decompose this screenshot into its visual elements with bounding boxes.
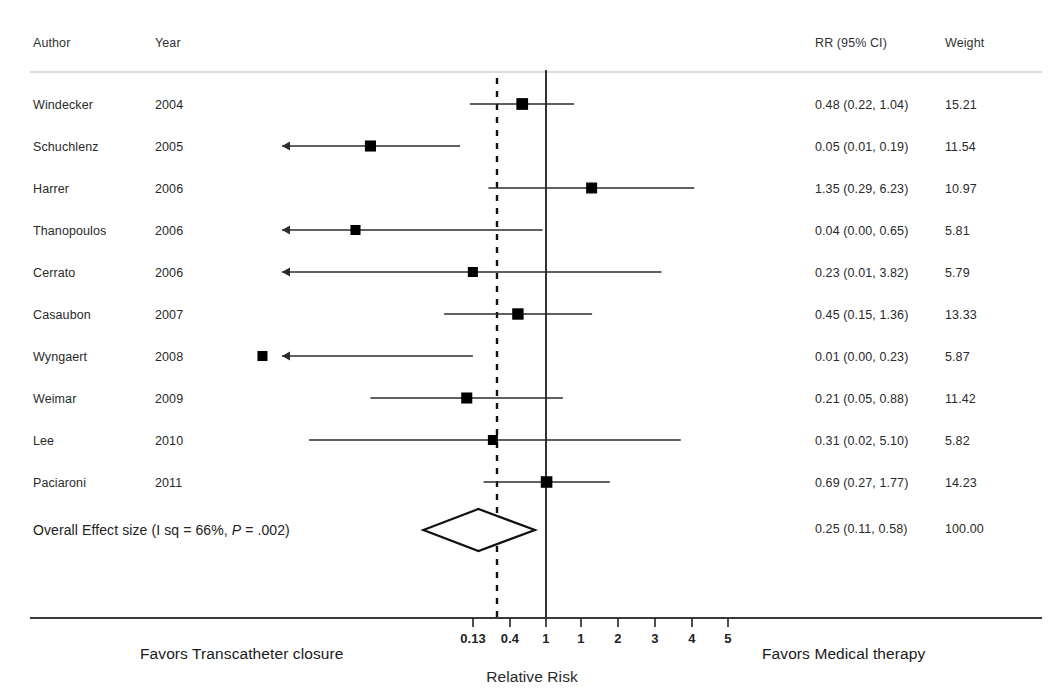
- x-tick-label-4: 2: [614, 631, 621, 646]
- effect-marker-0: [516, 98, 528, 110]
- effect-marker-4: [468, 267, 478, 277]
- forest-row-3: [282, 225, 543, 235]
- forest-row-4: [282, 267, 661, 277]
- effect-marker-7: [461, 392, 472, 403]
- x-tick-label-7: 5: [724, 631, 731, 646]
- effect-marker-8: [488, 435, 498, 445]
- x-tick-label-5: 3: [651, 631, 658, 646]
- effect-marker-9: [541, 476, 553, 488]
- effect-marker-6: [257, 351, 267, 361]
- x-tick-label-1: 0.4: [501, 631, 519, 646]
- forest-row-6: [257, 351, 472, 361]
- favors-right-label: Favors Medical therapy: [762, 645, 925, 663]
- ci-arrow-left-4: [282, 268, 290, 277]
- forest-row-7: [370, 392, 562, 403]
- effect-marker-1: [365, 140, 376, 151]
- ci-arrow-left-3: [282, 226, 290, 235]
- ci-arrow-left-1: [282, 142, 290, 151]
- x-tick-label-2: 1: [542, 631, 549, 646]
- forest-row-9: [484, 476, 610, 488]
- favors-left-label: Favors Transcatheter closure: [140, 645, 344, 663]
- effect-marker-5: [512, 308, 523, 319]
- x-axis-title: Relative Risk: [0, 668, 1064, 686]
- x-tick-label-0: 0.13: [460, 631, 486, 646]
- x-tick-label-6: 4: [688, 631, 695, 646]
- ci-arrow-left-6: [282, 352, 290, 361]
- effect-marker-2: [586, 183, 597, 194]
- forest-plot-canvas: [0, 0, 1064, 692]
- forest-row-2: [488, 183, 694, 194]
- x-tick-label-3: 1: [577, 631, 584, 646]
- effect-marker-3: [350, 225, 360, 235]
- forest-row-5: [444, 308, 592, 319]
- forest-row-8: [309, 435, 681, 445]
- pooled-effect-diamond: [423, 509, 535, 551]
- forest-row-1: [282, 140, 460, 151]
- forest-row-0: [470, 98, 574, 110]
